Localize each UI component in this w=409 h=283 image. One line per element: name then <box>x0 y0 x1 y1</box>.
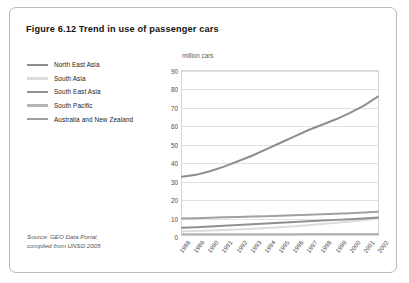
series-line <box>182 219 378 232</box>
x-axis-tick-label: 1999 <box>333 239 347 254</box>
legend-item[interactable]: South Pacific <box>27 99 155 113</box>
legend-item-label: South Asia <box>54 75 86 82</box>
y-axis-tick-label: 30 <box>171 178 178 185</box>
legend-item-label: South Pacific <box>54 102 93 109</box>
x-axis-tick-label: 1990 <box>206 239 220 254</box>
x-axis-tick-label: 2001 <box>361 239 375 254</box>
y-axis-tick-label: 60 <box>171 123 178 130</box>
chart-series-layer <box>182 71 378 235</box>
chart-legend: North East AsiaSouth AsiaSouth East Asia… <box>27 58 155 126</box>
legend-swatch-icon <box>27 91 48 93</box>
x-axis-tick-label: 1991 <box>220 239 234 254</box>
y-axis-tick-label: 40 <box>171 160 178 167</box>
x-axis-tick-label: 1988 <box>178 239 192 254</box>
y-axis-tick-label: 0 <box>174 234 178 241</box>
legend-item-label: Australia and New Zealand <box>54 116 133 123</box>
x-axis-tick-label: 2002 <box>376 239 390 254</box>
legend-item[interactable]: South Asia <box>27 72 155 86</box>
legend-swatch-icon <box>27 77 48 79</box>
series-line <box>182 212 378 219</box>
x-axis-tick-label: 1996 <box>291 239 305 254</box>
y-axis-tick-label: 90 <box>171 68 178 75</box>
legend-swatch-icon <box>27 104 48 106</box>
chart-plot-area: 0102030405060708090 19881989199019911992… <box>181 70 379 236</box>
x-axis-tick-label: 1997 <box>305 239 319 254</box>
y-axis-tick-label: 20 <box>171 197 178 204</box>
legend-item[interactable]: South East Asia <box>27 85 155 99</box>
chart-plot-wrapper: million cars 0102030405060708090 1988198… <box>158 52 390 264</box>
x-axis-tick-label: 1992 <box>234 239 248 254</box>
x-axis-tick-label: 1989 <box>192 239 206 254</box>
y-axis-tick-label: 50 <box>171 141 178 148</box>
series-line <box>182 97 378 177</box>
x-axis-tick-label: 1993 <box>248 239 262 254</box>
y-axis-tick-label: 10 <box>171 215 178 222</box>
x-axis-ticks: 1988198919901991199219931994199519961997… <box>182 235 378 269</box>
figure-card: Figure 6.12 Trend in use of passenger ca… <box>9 7 397 273</box>
y-axis-unit-label: million cars <box>182 52 214 59</box>
legend-swatch-icon <box>27 64 48 66</box>
legend-swatch-icon <box>27 118 48 120</box>
source-note: Source: GEO Data Portal, compiled from U… <box>27 233 101 250</box>
y-axis-tick-label: 80 <box>171 86 178 93</box>
legend-item-label: South East Asia <box>54 88 101 95</box>
y-axis-tick-label: 70 <box>171 104 178 111</box>
legend-item[interactable]: North East Asia <box>27 58 155 72</box>
x-axis-tick-label: 1998 <box>319 239 333 254</box>
x-axis-tick-label: 2000 <box>347 239 361 254</box>
legend-item[interactable]: Australia and New Zealand <box>27 112 155 126</box>
page-title: Figure 6.12 Trend in use of passenger ca… <box>26 24 219 34</box>
x-axis-tick-label: 1995 <box>277 239 291 254</box>
legend-item-label: North East Asia <box>54 61 100 68</box>
x-axis-tick-label: 1994 <box>262 239 276 254</box>
